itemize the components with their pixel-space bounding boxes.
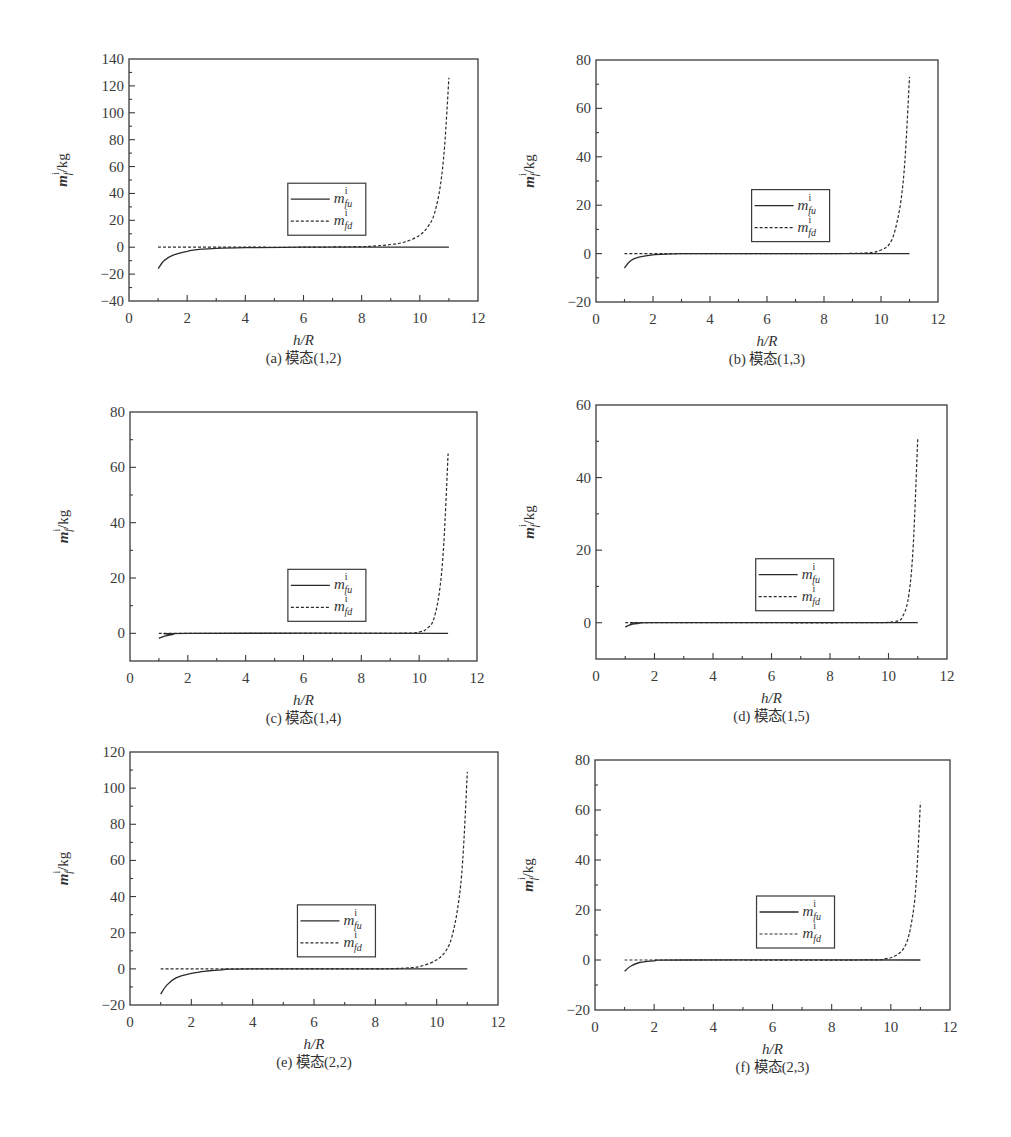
y-tick-label: 0	[118, 625, 126, 641]
x-tick-label: 6	[769, 1019, 777, 1035]
x-axis-label: h/R	[304, 1036, 325, 1052]
chart-panel-e: 024681012−20020406080100120mifumifdh/R(e…	[51, 744, 506, 1071]
series-line-mfu	[625, 254, 910, 269]
y-tick-label: 100	[103, 780, 126, 796]
x-tick-label: 6	[310, 1014, 318, 1030]
plot-frame	[129, 59, 478, 301]
y-tick-label: 60	[110, 852, 125, 868]
x-tick-label: 8	[828, 1019, 836, 1035]
plot-frame	[130, 412, 477, 661]
x-tick-label: 0	[126, 1014, 134, 1030]
x-tick-label: 4	[709, 668, 717, 684]
x-tick-label: 6	[300, 670, 308, 686]
plot-frame	[595, 760, 950, 1010]
x-tick-label: 2	[649, 311, 657, 327]
x-tick-label: 10	[881, 668, 896, 684]
y-tick-label: 80	[576, 52, 591, 68]
legend: mifumifd	[297, 905, 375, 957]
x-tick-label: 4	[249, 1014, 257, 1030]
y-tick-label: 0	[117, 239, 125, 255]
y-tick-label: 60	[576, 100, 591, 116]
x-tick-label: 8	[358, 310, 366, 326]
y-tick-label: 20	[109, 212, 124, 228]
y-tick-label: −20	[567, 1002, 590, 1018]
x-tick-label: 10	[429, 1014, 444, 1030]
x-tick-label: 12	[940, 668, 955, 684]
x-tick-label: 8	[826, 668, 834, 684]
x-tick-label: 2	[651, 668, 659, 684]
panel-caption: (c) 模态(1,4)	[266, 710, 342, 727]
panel-caption: (a) 模态(1,2)	[266, 350, 342, 367]
chart-panel-b: 024681012−20020406080mifumifdh/R(b) 模态(1…	[517, 52, 946, 368]
y-tick-label: 60	[576, 397, 591, 413]
legend: mifumifd	[756, 559, 834, 611]
x-tick-label: 6	[768, 668, 776, 684]
chart-panel-a: 024681012−40−20020406080100120140mifumif…	[50, 51, 486, 367]
x-axis-label: h/R	[293, 692, 314, 708]
x-tick-label: 12	[470, 670, 485, 686]
series-line-mfu	[625, 960, 921, 971]
x-tick-label: 10	[412, 310, 427, 326]
x-tick-label: 2	[188, 1014, 196, 1030]
y-tick-label: 80	[575, 752, 590, 768]
y-tick-label: −20	[101, 266, 124, 282]
y-tick-label: 100	[102, 105, 125, 121]
x-tick-label: 4	[706, 311, 714, 327]
panel-caption: (f) 模态(2,3)	[736, 1059, 810, 1076]
y-tick-label: 140	[102, 51, 125, 67]
chart-panel-d: 0246810120204060mifumifdh/R(d) 模态(1,5)mi…	[517, 397, 955, 725]
x-tick-label: 0	[125, 310, 133, 326]
y-tick-label: 80	[109, 132, 124, 148]
x-tick-label: 6	[300, 310, 308, 326]
y-tick-label: 40	[575, 852, 590, 868]
y-tick-label: 40	[110, 889, 125, 905]
legend: mifumifd	[288, 569, 366, 621]
figure-grid: 024681012−40−20020406080100120140mifumif…	[0, 0, 1011, 1137]
y-tick-label: 0	[583, 952, 591, 968]
x-tick-label: 12	[943, 1019, 958, 1035]
x-tick-label: 8	[358, 670, 366, 686]
x-tick-label: 8	[372, 1014, 380, 1030]
legend: mifumifd	[288, 183, 366, 235]
y-tick-label: 0	[118, 961, 126, 977]
x-axis-label: h/R	[757, 333, 778, 349]
chart-panel-c: 024681012020406080mifumifdh/R(c) 模态(1,4)…	[51, 404, 485, 727]
y-tick-label: 20	[576, 542, 591, 558]
y-tick-label: 60	[575, 802, 590, 818]
x-tick-label: 12	[931, 311, 946, 327]
y-tick-label: 40	[109, 185, 124, 201]
y-tick-label: 20	[575, 902, 590, 918]
chart-panel-f: 024681012−20020406080mifumifdh/R(f) 模态(2…	[516, 752, 958, 1076]
y-tick-label: 120	[103, 744, 126, 760]
series-line-mfu	[161, 969, 468, 994]
y-tick-label: 20	[110, 925, 125, 941]
plot-frame	[596, 405, 947, 659]
y-tick-label: 0	[584, 615, 592, 631]
y-tick-label: 40	[110, 515, 125, 531]
panel-caption: (b) 模态(1,3)	[729, 351, 805, 368]
y-tick-label: 60	[110, 459, 125, 475]
series-line-mfu	[158, 247, 449, 269]
x-tick-label: 2	[184, 670, 192, 686]
x-tick-label: 6	[763, 311, 771, 327]
y-tick-label: 80	[110, 404, 125, 420]
y-tick-label: 20	[576, 197, 591, 213]
x-tick-label: 4	[242, 310, 250, 326]
x-tick-label: 0	[126, 670, 134, 686]
y-tick-label: 120	[102, 78, 125, 94]
x-tick-label: 10	[412, 670, 427, 686]
x-tick-label: 0	[591, 1019, 599, 1035]
series-line-mfu	[159, 633, 448, 638]
y-tick-label: 40	[576, 149, 591, 165]
x-tick-label: 10	[874, 311, 889, 327]
y-tick-label: 0	[584, 246, 592, 262]
legend: mifumifd	[752, 190, 830, 242]
x-tick-label: 4	[710, 1019, 718, 1035]
panel-caption: (d) 模态(1,5)	[733, 708, 809, 725]
plot-frame	[596, 60, 938, 302]
x-tick-label: 2	[650, 1019, 658, 1035]
x-tick-label: 0	[592, 668, 600, 684]
y-tick-label: −40	[101, 293, 124, 309]
y-tick-label: −20	[102, 997, 125, 1013]
y-axis-label: mif/kg	[517, 154, 540, 188]
